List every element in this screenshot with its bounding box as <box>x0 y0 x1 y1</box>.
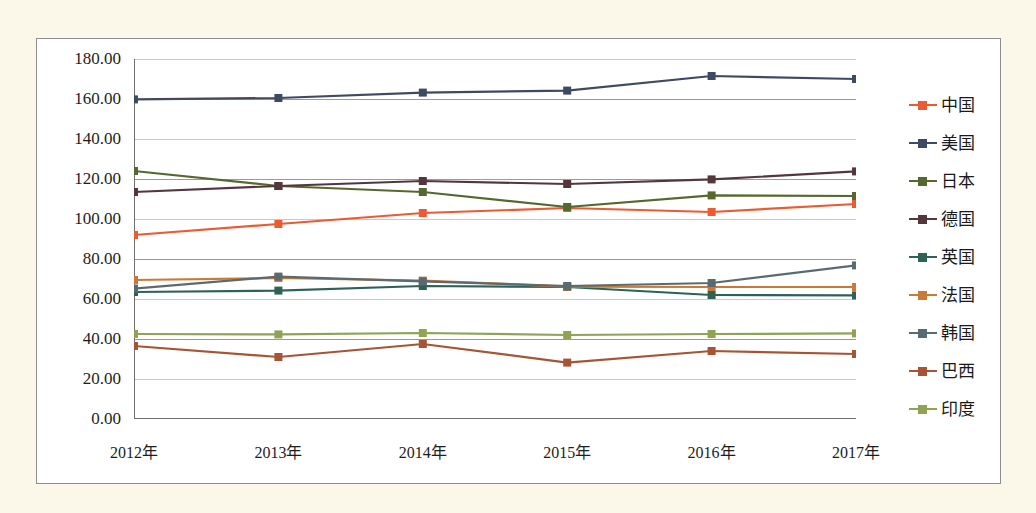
data-point-marker <box>563 203 571 211</box>
legend-item[interactable]: 英国 <box>909 247 975 267</box>
data-point-marker <box>134 330 138 338</box>
data-point-marker <box>852 167 856 175</box>
legend-item[interactable]: 德国 <box>909 209 975 229</box>
x-axis-tick-label: 2015年 <box>543 439 591 463</box>
data-point-marker <box>708 330 716 338</box>
data-point-marker <box>563 180 571 188</box>
legend-swatch-icon <box>909 136 937 150</box>
data-point-marker <box>563 331 571 339</box>
data-point-marker <box>708 279 716 287</box>
data-point-marker <box>419 177 427 185</box>
chart-legend: 中国美国日本德国英国法国韩国巴西印度 <box>909 95 999 435</box>
data-point-marker <box>134 276 138 284</box>
data-point-marker <box>708 175 716 183</box>
chart-page: 180.00160.00140.00120.00100.0080.0060.00… <box>0 0 1036 513</box>
data-point-marker <box>852 291 856 299</box>
y-axis-tick-label: 100.00 <box>74 209 121 229</box>
legend-item[interactable]: 印度 <box>909 399 975 419</box>
x-axis-tick-label: 2016年 <box>688 439 736 463</box>
data-point-marker <box>419 277 427 285</box>
data-point-marker <box>708 208 716 216</box>
x-axis-tick-label: 2017年 <box>832 439 880 463</box>
legend-item[interactable]: 巴西 <box>909 361 975 381</box>
data-point-marker <box>852 200 856 208</box>
legend-label: 日本 <box>941 173 975 190</box>
data-point-marker <box>134 95 138 103</box>
legend-swatch-icon <box>909 98 937 112</box>
plot-svg <box>134 59 856 419</box>
legend-item[interactable]: 法国 <box>909 285 975 305</box>
y-axis-tick-label: 40.00 <box>83 329 121 349</box>
data-point-marker <box>134 342 138 350</box>
data-point-marker <box>134 188 138 196</box>
y-axis-tick-label: 140.00 <box>74 129 121 149</box>
legend-swatch-icon <box>909 326 937 340</box>
x-axis-labels: 2012年2013年2014年2015年2016年2017年 <box>134 427 856 461</box>
series-line <box>134 344 856 363</box>
series-line <box>134 333 856 335</box>
data-point-marker <box>419 188 427 196</box>
data-point-marker <box>274 330 282 338</box>
data-point-marker <box>708 291 716 299</box>
data-point-marker <box>274 273 282 281</box>
legend-swatch-icon <box>909 288 937 302</box>
legend-item[interactable]: 日本 <box>909 171 975 191</box>
legend-item[interactable]: 中国 <box>909 95 975 115</box>
series-line <box>134 265 856 288</box>
legend-label: 英国 <box>941 249 975 266</box>
legend-swatch-icon <box>909 402 937 416</box>
legend-item[interactable]: 韩国 <box>909 323 975 343</box>
legend-label: 印度 <box>941 401 975 418</box>
legend-label: 美国 <box>941 135 975 152</box>
data-point-marker <box>708 191 716 199</box>
data-point-marker <box>419 89 427 97</box>
data-point-marker <box>274 287 282 295</box>
series-7 <box>134 340 856 367</box>
legend-swatch-icon <box>909 212 937 226</box>
y-axis-tick-label: 160.00 <box>74 89 121 109</box>
series-line <box>134 76 856 99</box>
data-point-marker <box>708 347 716 355</box>
legend-swatch-icon <box>909 174 937 188</box>
data-point-marker <box>274 220 282 228</box>
legend-label: 巴西 <box>941 363 975 380</box>
data-point-marker <box>852 192 856 200</box>
series-5 <box>134 274 856 291</box>
plot-area <box>134 59 856 419</box>
data-point-marker <box>852 75 856 83</box>
data-point-marker <box>563 87 571 95</box>
x-axis-tick-label: 2014年 <box>399 439 447 463</box>
data-point-marker <box>274 182 282 190</box>
legend-label: 德国 <box>941 211 975 228</box>
data-point-marker <box>134 167 138 175</box>
legend-item[interactable]: 美国 <box>909 133 975 153</box>
data-point-marker <box>852 329 856 337</box>
data-point-marker <box>274 353 282 361</box>
data-point-marker <box>134 285 138 293</box>
data-point-marker <box>419 329 427 337</box>
data-point-marker <box>563 282 571 290</box>
legend-label: 韩国 <box>941 325 975 342</box>
y-axis-tick-label: 60.00 <box>83 289 121 309</box>
data-point-marker <box>852 261 856 269</box>
data-point-marker <box>563 359 571 367</box>
legend-swatch-icon <box>909 250 937 264</box>
series-2 <box>134 167 856 211</box>
y-axis-tick-label: 0.00 <box>91 409 121 429</box>
x-axis-tick-label: 2012年 <box>110 439 158 463</box>
data-point-marker <box>852 350 856 358</box>
x-axis-tick-label: 2013年 <box>254 439 302 463</box>
y-axis-tick-label: 80.00 <box>83 249 121 269</box>
data-point-marker <box>419 209 427 217</box>
axis-frame <box>135 59 857 419</box>
series-8 <box>134 329 856 339</box>
y-axis-tick-label: 20.00 <box>83 369 121 389</box>
y-axis-tick-label: 180.00 <box>74 49 121 69</box>
y-axis-tick-label: 120.00 <box>74 169 121 189</box>
data-point-marker <box>708 72 716 80</box>
legend-label: 法国 <box>941 287 975 304</box>
legend-swatch-icon <box>909 364 937 378</box>
data-point-marker <box>852 283 856 291</box>
data-point-marker <box>274 94 282 102</box>
data-point-marker <box>419 340 427 348</box>
